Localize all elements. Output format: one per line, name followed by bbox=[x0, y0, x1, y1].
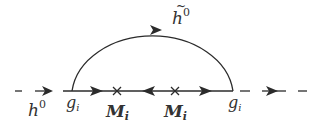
arc-arrow-icon bbox=[150, 25, 162, 35]
label-htilde: h0 bbox=[172, 6, 190, 28]
higgsino-arc bbox=[72, 36, 233, 91]
feynman-diagram: h0 gi Mi Mi gi ~ h0 bbox=[0, 0, 320, 129]
label-g-right: gi bbox=[228, 93, 241, 113]
label-h0: h0 bbox=[28, 98, 46, 120]
label-g-left: gi bbox=[66, 93, 79, 113]
label-m1: Mi bbox=[105, 101, 129, 123]
label-m2: Mi bbox=[163, 101, 187, 123]
